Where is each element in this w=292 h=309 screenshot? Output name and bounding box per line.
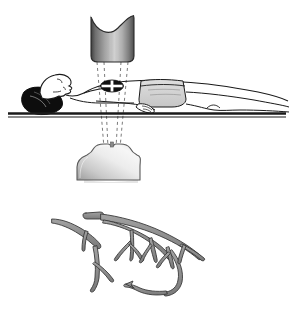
figure-root: Cardiac X-ray imaging setup with coronar… [0, 0, 292, 309]
x-ray-tube[interactable] [91, 11, 134, 62]
detector-apex-stem [111, 142, 114, 147]
heart-target-marker[interactable] [101, 80, 124, 92]
illustration-canvas [0, 0, 292, 309]
canvas-background [0, 0, 292, 309]
patient-garment [139, 80, 186, 108]
